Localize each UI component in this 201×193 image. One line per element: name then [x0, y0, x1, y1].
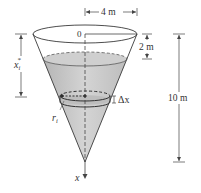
diagram-canvas: x 0 4 m 2 m 10 m xi* [0, 0, 201, 193]
slice-thickness-bracket [112, 96, 116, 103]
depth-to-water-label: 2 m [139, 42, 154, 52]
conical-tank-diagram: x 0 4 m 2 m 10 m xi* [0, 0, 201, 193]
top-radius-label: 4 m [101, 7, 116, 17]
slice-radius-label: ri [52, 112, 58, 124]
axis-label: x [74, 172, 80, 183]
height-label: 10 m [168, 93, 188, 103]
origin-label: 0 [77, 29, 82, 39]
axis-arrow-icon [83, 174, 88, 179]
slice-position-label: xi* [13, 56, 21, 71]
slice-thickness-label: Δx [118, 94, 129, 105]
